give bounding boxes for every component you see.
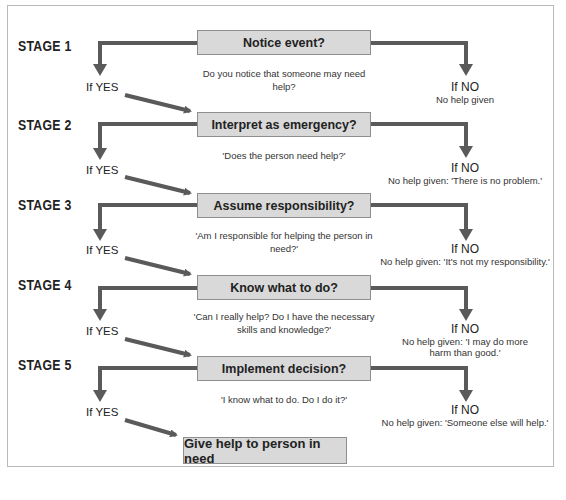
- stage-5-decision-box: Implement decision?: [197, 356, 371, 381]
- stage4-yes-branch: [100, 288, 197, 313]
- stage-1-yes-label: If YES: [86, 81, 118, 93]
- final-outcome-box: Give help to person in need: [183, 437, 347, 464]
- stage1-no-branch: [371, 43, 466, 68]
- stage-1-no-text: No help given: [370, 94, 560, 105]
- stage2-no-branch: [371, 124, 466, 150]
- stage-2-label: STAGE 2: [18, 117, 72, 133]
- stage1-yes-arrow: [125, 95, 190, 111]
- stage4-yes-arrow: [125, 339, 190, 355]
- stage-5-no-text: No help given: 'Someone else will help.': [370, 417, 560, 428]
- stage1-yes-branch: [100, 43, 197, 68]
- stage-1-decision-box: Notice event?: [197, 30, 371, 55]
- stage-3-question: 'Am I responsible for helping the person…: [190, 229, 378, 255]
- stage-2-no-outcome: If NO No help given: 'There is no proble…: [370, 162, 560, 186]
- stage3-yes-arrow: [125, 258, 190, 274]
- stage-5-yes-label: If YES: [86, 406, 118, 418]
- stage5-yes-branch: [100, 368, 197, 394]
- stage-1-label: STAGE 1: [18, 38, 72, 54]
- stage-2-question: 'Does the person need help?': [190, 149, 378, 162]
- stage-4-no-label: If NO: [370, 323, 560, 336]
- stage-3-no-outcome: If NO No help given: 'It's not my respon…: [370, 243, 560, 267]
- stage-3-yes-label: If YES: [86, 244, 118, 256]
- stage3-yes-branch: [100, 205, 197, 233]
- stage3-no-branch: [371, 205, 466, 233]
- stage-1-no-label: If NO: [370, 81, 560, 94]
- stage2-yes-arrow: [125, 177, 190, 193]
- stage4-no-branch: [371, 288, 466, 313]
- stage-4-label: STAGE 4: [18, 277, 72, 293]
- stage-1-no-outcome: If NO No help given: [370, 81, 560, 105]
- stage-5-no-label: If NO: [370, 404, 560, 417]
- stage5-yes-arrow: [125, 420, 176, 435]
- stage-3-no-label: If NO: [370, 243, 560, 256]
- stage5-no-branch: [371, 368, 466, 394]
- stage-4-question: 'Can I really help? Do I have the necess…: [190, 310, 378, 336]
- stage-5-question: 'I know what to do. Do I do it?': [190, 393, 378, 406]
- stage-2-no-label: If NO: [370, 162, 560, 175]
- stage-5-no-outcome: If NO No help given: 'Someone else will …: [370, 404, 560, 428]
- stage-2-yes-label: If YES: [86, 164, 118, 176]
- stage-4-no-outcome: If NO No help given: 'I may do more harm…: [370, 323, 560, 358]
- stage-2-decision-box: Interpret as emergency?: [197, 112, 371, 137]
- stage-3-no-text: No help given: 'It's not my responsibili…: [370, 256, 560, 267]
- stage-4-yes-label: If YES: [86, 325, 118, 337]
- stage-4-decision-box: Know what to do?: [197, 275, 371, 300]
- stage-3-decision-box: Assume responsibility?: [197, 193, 371, 218]
- stage-5-label: STAGE 5: [18, 357, 72, 373]
- stage-1-question: Do you notice that someone may need help…: [190, 67, 378, 93]
- stage2-yes-branch: [100, 124, 197, 152]
- stage-4-no-text: No help given: 'I may do more harm than …: [370, 336, 560, 358]
- stage-2-no-text: No help given: 'There is no problem.': [370, 175, 560, 186]
- stage-3-label: STAGE 3: [18, 197, 72, 213]
